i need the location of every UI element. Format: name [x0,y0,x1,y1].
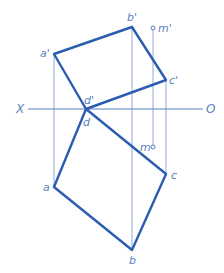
front-view-quadrilateral [54,27,166,109]
label-b-prime: b' [127,11,137,24]
axis-label-o: O [206,102,215,116]
label-m: m [140,141,151,154]
label-c: c [171,169,177,182]
label-d: d [83,116,91,129]
label-c-prime: c' [169,74,178,87]
label-m-prime: m' [158,22,172,35]
top-view-quadrilateral [54,109,166,250]
label-d-prime: d' [84,94,94,107]
point-m-front [151,26,155,30]
label-a: a [43,181,50,194]
point-m-top [151,145,155,149]
axis-label-x: X [15,102,25,116]
projection-diagram: X O a' b' c' d' m' a b c d m [0,0,224,273]
label-a-prime: a' [40,47,50,60]
label-b: b [129,254,136,267]
